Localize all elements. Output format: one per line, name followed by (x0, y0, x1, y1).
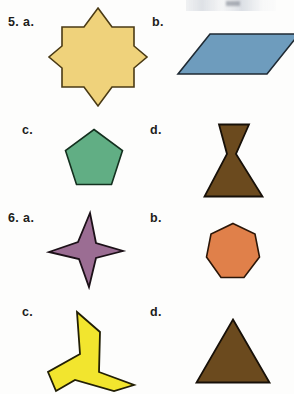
problem-label-5d: d. (150, 124, 162, 137)
eight-pointed-star-path (49, 8, 147, 106)
shape-three-armed-pinwheel (44, 310, 136, 392)
shape-four-pointed-star (47, 211, 125, 289)
problem-label-6b: b. (150, 212, 162, 225)
worksheet-page: 5. a. b. c. d. 6. a. b. (0, 0, 294, 394)
page-top-bleed-mark (226, 1, 240, 6)
shape-triangle (195, 318, 271, 384)
parallelogram-path (178, 34, 294, 74)
problem-label-6d: d. (150, 306, 162, 319)
problem-label-5a: 5. a. (8, 16, 34, 29)
heptagon-path (207, 224, 260, 278)
shape-pentagon (64, 128, 124, 186)
problem-label-6c: c. (22, 306, 33, 319)
shape-eight-pointed-star (48, 6, 148, 108)
problem-label-5c: c. (22, 124, 33, 137)
pentagon-path (66, 130, 123, 185)
shape-heptagon (205, 222, 261, 282)
pinwheel-path (48, 312, 134, 391)
triangle-path (197, 320, 270, 383)
problem-label-6a: 6. a. (8, 212, 34, 225)
shape-concave-hexagon-hourglass (198, 123, 264, 198)
four-pointed-star-path (49, 213, 123, 287)
problem-label-5b: b. (152, 16, 164, 29)
concave-hexagon-path (205, 125, 263, 197)
page-top-bleed-artifact (186, 0, 276, 11)
shape-parallelogram (178, 32, 294, 80)
